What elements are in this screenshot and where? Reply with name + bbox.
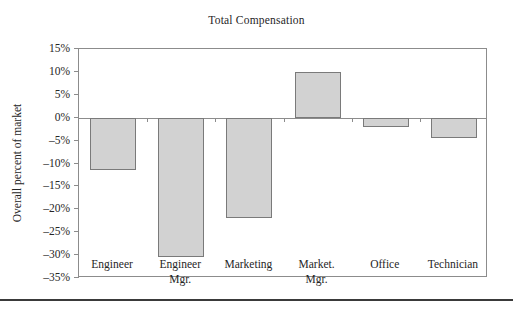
y-tick-label: –25% (4, 225, 70, 237)
y-tick-label: –15% (4, 179, 70, 191)
y-tick-label: –5% (4, 134, 70, 146)
bar[interactable] (90, 118, 136, 171)
bottom-divider (0, 299, 513, 301)
y-tick-label: 0% (4, 111, 70, 123)
x-axis-label-line1: Engineer (91, 258, 133, 270)
y-tick-label: –30% (4, 248, 70, 260)
x-axis-label: Technician (419, 258, 487, 270)
x-tick-mark (420, 118, 421, 122)
zero-baseline (79, 118, 486, 119)
y-tick-label: –20% (4, 202, 70, 214)
x-axis-label-line2: Mgr. (283, 273, 351, 285)
x-axis-label: EngineerMgr. (146, 258, 214, 285)
x-axis-label: Office (351, 258, 419, 270)
x-axis-label: Market.Mgr. (283, 258, 351, 285)
x-axis-label-line1: Engineer (159, 258, 201, 270)
x-tick-mark (147, 118, 148, 122)
y-tick-label: 10% (4, 65, 70, 77)
y-tick-mark (74, 277, 79, 278)
y-tick-label: 5% (4, 88, 70, 100)
x-tick-mark (215, 118, 216, 122)
x-tick-mark (284, 118, 285, 122)
chart-title: Total Compensation (0, 14, 513, 26)
bar[interactable] (431, 118, 477, 139)
x-axis-label-line1: Market. (299, 258, 335, 270)
x-axis-label-line2: Mgr. (146, 273, 214, 285)
x-axis-label-line1: Office (370, 258, 399, 270)
x-axis-label-line1: Technician (428, 258, 478, 270)
y-tick-label: –10% (4, 157, 70, 169)
x-tick-mark (352, 118, 353, 122)
x-axis-label-line1: Marketing (224, 258, 272, 270)
x-axis-label: Engineer (78, 258, 146, 270)
bar[interactable] (295, 72, 341, 118)
chart-figure: Total Compensation Overall percent of ma… (0, 0, 513, 311)
x-axis-label: Marketing (214, 258, 282, 270)
bar[interactable] (363, 118, 409, 127)
plot-area (78, 48, 487, 277)
bar[interactable] (158, 118, 204, 258)
y-tick-label: –35% (4, 271, 70, 283)
bar[interactable] (226, 118, 272, 219)
y-tick-label: 15% (4, 42, 70, 54)
